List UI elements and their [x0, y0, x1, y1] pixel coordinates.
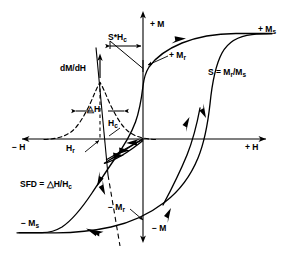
axis-label-minus-h: − H	[12, 143, 25, 152]
hr-pointer	[85, 141, 99, 153]
arrow-ascending-lower-center	[164, 208, 171, 223]
label-sfd-definition: SFD = △H/Hc	[20, 180, 72, 189]
label-s-hc: S*Hc	[108, 33, 127, 42]
label-dmdh: dM/dH	[60, 64, 86, 73]
label-plus-mr: + Mr	[169, 51, 186, 60]
axis-label-plus-m: + M	[150, 20, 164, 29]
label-minus-mr: − Mr	[108, 203, 125, 212]
hc-pointer	[109, 128, 120, 136]
label-plus-ms: + Ms	[258, 25, 276, 34]
descending-branch	[19, 34, 272, 237]
hysteresis-loop-figure: + M − M + H − H + Ms − Ms + Mr − Mr Hc H…	[0, 0, 291, 256]
axis-horizontal	[22, 136, 266, 142]
label-delta-h: △H	[87, 105, 100, 114]
ascending-branch-curve	[17, 34, 272, 237]
axis-label-minus-m: − M	[152, 224, 166, 233]
label-hc: Hc	[108, 119, 118, 128]
label-squareness-definition: S = Mr/Ms	[208, 68, 246, 77]
arrow-ascending-center	[183, 117, 190, 132]
s-hc-measure	[110, 41, 143, 72]
hysteresis-loop-svg	[0, 0, 291, 256]
arrow-ascending-right	[199, 104, 206, 119]
minor-loop	[104, 139, 143, 164]
ascending-branch	[19, 32, 272, 233]
label-hr: Hr	[66, 144, 75, 153]
axis-label-plus-h: + H	[245, 143, 258, 152]
label-minus-ms: − Ms	[21, 219, 39, 228]
